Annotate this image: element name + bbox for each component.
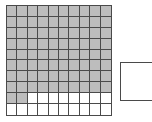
grid-cell[interactable] [80,28,90,39]
grid-cell[interactable] [17,17,27,28]
grid-cell[interactable] [90,71,100,82]
grid-cell[interactable] [80,93,90,104]
grid-cell[interactable] [28,28,38,39]
grid-cell[interactable] [80,104,90,115]
grid-cell[interactable] [7,60,17,71]
grid-cell[interactable] [38,6,48,17]
grid-cell[interactable] [69,17,79,28]
grid-cell[interactable] [101,50,111,61]
grid-cell[interactable] [59,71,69,82]
grid-cell[interactable] [38,93,48,104]
grid-cell[interactable] [7,50,17,61]
grid-cell[interactable] [49,93,59,104]
grid-cell[interactable] [80,39,90,50]
grid-cell[interactable] [59,82,69,93]
grid-cell[interactable] [101,28,111,39]
grid-cell[interactable] [101,39,111,50]
grid-cell[interactable] [59,104,69,115]
grid-cell[interactable] [101,82,111,93]
grid-cell[interactable] [90,50,100,61]
grid-cell[interactable] [59,93,69,104]
grid-cell[interactable] [101,17,111,28]
grid-cell[interactable] [59,50,69,61]
grid-cell[interactable] [17,28,27,39]
grid-cell[interactable] [101,104,111,115]
grid-cell[interactable] [69,104,79,115]
grid-cell[interactable] [49,28,59,39]
grid-cell[interactable] [28,60,38,71]
grid-cell[interactable] [101,6,111,17]
grid-cell[interactable] [17,6,27,17]
grid-cell[interactable] [90,28,100,39]
grid-cell[interactable] [49,82,59,93]
grid-cell[interactable] [90,93,100,104]
grid-cell[interactable] [28,39,38,50]
grid-cell[interactable] [17,39,27,50]
grid-cell[interactable] [17,71,27,82]
ten-by-ten-grid[interactable] [6,5,112,116]
grid-cell[interactable] [7,71,17,82]
grid-cell[interactable] [80,82,90,93]
grid-cell[interactable] [49,17,59,28]
grid-cell[interactable] [80,17,90,28]
grid-cell[interactable] [69,60,79,71]
grid-cell[interactable] [17,82,27,93]
grid-cell[interactable] [49,60,59,71]
grid-cell[interactable] [59,39,69,50]
empty-answer-box[interactable] [120,62,152,101]
grid-cell[interactable] [90,104,100,115]
grid-cell[interactable] [38,82,48,93]
grid-cell[interactable] [49,39,59,50]
grid-cell[interactable] [90,60,100,71]
grid-cell[interactable] [17,50,27,61]
grid-cell[interactable] [7,93,17,104]
grid-cell[interactable] [38,60,48,71]
grid-cell[interactable] [28,6,38,17]
grid-cell[interactable] [49,104,59,115]
grid-cell[interactable] [7,39,17,50]
grid-cell[interactable] [59,6,69,17]
grid-cell[interactable] [38,17,48,28]
grid-cell[interactable] [28,17,38,28]
grid-cell[interactable] [49,6,59,17]
grid-cell[interactable] [38,28,48,39]
grid-cell[interactable] [17,60,27,71]
grid-cell[interactable] [28,82,38,93]
grid-cell[interactable] [17,104,27,115]
grid-cell[interactable] [17,93,27,104]
grid-cell[interactable] [7,82,17,93]
grid-cell[interactable] [59,60,69,71]
grid-cell[interactable] [7,17,17,28]
grid-cell[interactable] [90,17,100,28]
grid-cell[interactable] [90,6,100,17]
grid-cell[interactable] [69,50,79,61]
grid-cell[interactable] [101,71,111,82]
grid-cell[interactable] [49,71,59,82]
grid-cell[interactable] [80,60,90,71]
grid-cell[interactable] [90,39,100,50]
grid-cell[interactable] [28,93,38,104]
grid-cell[interactable] [28,71,38,82]
grid-cell[interactable] [28,104,38,115]
grid-cell[interactable] [28,50,38,61]
grid-cell[interactable] [80,50,90,61]
grid-cell[interactable] [101,60,111,71]
grid-cell[interactable] [38,71,48,82]
grid-cell[interactable] [59,28,69,39]
grid-cell[interactable] [38,50,48,61]
grid-cell[interactable] [59,17,69,28]
grid-cell[interactable] [69,6,79,17]
grid-cell[interactable] [7,6,17,17]
grid-cell[interactable] [69,82,79,93]
grid-cell[interactable] [80,6,90,17]
grid-cell[interactable] [90,82,100,93]
grid-cell[interactable] [80,71,90,82]
grid-cell[interactable] [7,28,17,39]
grid-cell[interactable] [38,104,48,115]
grid-cell[interactable] [101,93,111,104]
grid-cell[interactable] [7,104,17,115]
grid-cell[interactable] [38,39,48,50]
grid-cell[interactable] [69,71,79,82]
grid-cell[interactable] [69,93,79,104]
grid-cell[interactable] [49,50,59,61]
